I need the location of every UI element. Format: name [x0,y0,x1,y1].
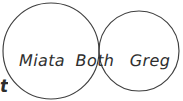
venn-label-right: Greg [130,53,171,69]
venn-label-intersection: Both [76,53,115,69]
venn-diagram-canvas: Miata Both Greg t [0,0,183,101]
clipped-text-fragment: t [0,78,8,95]
venn-label-left: Miata [19,53,65,69]
